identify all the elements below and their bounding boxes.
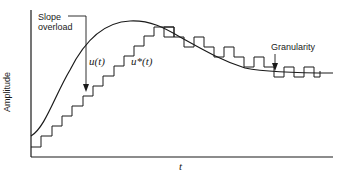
slope-overload-line1: Slope [38, 12, 73, 22]
slope-overload-label: Slope overload [38, 12, 73, 32]
arrow-down-icon [83, 84, 89, 92]
x-axis-label: t [179, 160, 182, 172]
granularity-label: Granularity [271, 42, 315, 52]
u-t-label: u(t) [89, 55, 105, 67]
u-star-t-label: u*(t) [131, 55, 152, 67]
slope-overload-line2: overload [38, 22, 73, 32]
signal-curve-u [31, 21, 333, 136]
y-axis-label: Amplitude [2, 62, 14, 122]
